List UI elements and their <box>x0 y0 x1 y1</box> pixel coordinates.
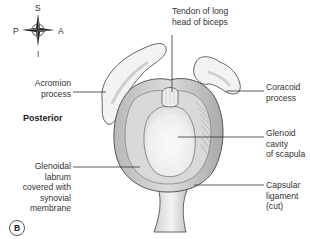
label-glenoidal-labrum: Glenoidal labrum covered with synovial m… <box>23 161 71 214</box>
view-label-posterior: Posterior <box>23 113 63 124</box>
compass-posterior: P <box>13 26 19 36</box>
compass-anterior: A <box>58 26 64 36</box>
scapula-neck <box>154 188 188 232</box>
compass-inferior: I <box>37 49 39 59</box>
label-acromion-process: Acromion process <box>35 78 71 99</box>
label-glenoid-cavity: Glenoid cavity of scapula <box>266 128 305 160</box>
glenoid-cavity-shape <box>144 106 195 177</box>
panel-label-badge: B <box>9 220 25 236</box>
label-coracoid-process: Coracoid process <box>266 82 300 103</box>
compass-superior: S <box>35 3 41 13</box>
label-capsular-ligament: Capsular ligament (cut) <box>266 180 300 212</box>
label-biceps-tendon: Tendon of long head of biceps <box>172 6 228 27</box>
compass-rose-icon <box>22 14 54 46</box>
